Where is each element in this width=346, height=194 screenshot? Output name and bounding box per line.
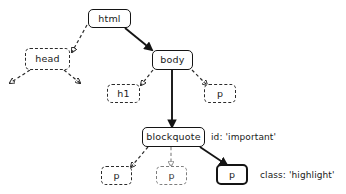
node-p-blockquote-middle[interactable]: p [156, 166, 187, 185]
node-html-label: html [98, 14, 120, 24]
node-p-body[interactable]: p [204, 84, 236, 103]
node-p-body-label: p [217, 89, 223, 99]
node-html[interactable]: html [88, 9, 131, 28]
edge-head-offscreen-right [64, 70, 80, 83]
edge-html-body [125, 28, 152, 50]
edge-body-h1 [141, 70, 153, 85]
dom-tree-diagram: html head body h1 p blockquote p p p id:… [0, 0, 346, 194]
edge-html-head [72, 25, 87, 52]
node-head-label: head [35, 54, 60, 64]
node-body-label: body [160, 55, 184, 65]
node-body[interactable]: body [152, 50, 193, 70]
node-p-blockquote-left[interactable]: p [101, 166, 132, 185]
node-p-blockquote-middle-label: p [168, 171, 174, 181]
edge-blockquote-p-right [200, 147, 227, 165]
node-head[interactable]: head [25, 48, 70, 70]
node-blockquote-label: blockquote [146, 132, 201, 142]
node-p-blockquote-left-label: p [113, 171, 119, 181]
node-h1[interactable]: h1 [107, 84, 140, 103]
edge-layer [0, 0, 346, 194]
edge-blockquote-p-left [131, 147, 148, 167]
node-blockquote[interactable]: blockquote [142, 127, 205, 147]
annotation-id-important: id: 'important' [211, 132, 276, 142]
annotation-class-highlight: class: 'highlight' [260, 170, 335, 180]
edge-head-offscreen-left [10, 70, 30, 83]
edge-body-p [192, 70, 207, 85]
node-p-blockquote-right[interactable]: p [216, 164, 248, 185]
node-h1-label: h1 [117, 89, 129, 99]
node-p-blockquote-right-label: p [229, 170, 235, 180]
